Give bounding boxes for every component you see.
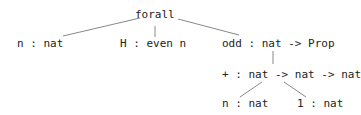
node-H-even-n: H : even n <box>120 37 186 50</box>
node-n-nat: n : nat <box>17 37 63 50</box>
node-forall: forall <box>135 8 175 21</box>
edge-plus-1 <box>284 82 306 97</box>
node-n-nat-leaf: n : nat <box>222 97 268 110</box>
node-odd: odd : nat -> Prop <box>222 37 335 50</box>
node-plus: + : nat -> nat -> nat <box>222 68 361 81</box>
edge-plus-n <box>240 82 262 97</box>
edge-forall-n <box>63 18 140 36</box>
node-1-nat: 1 : nat <box>297 97 343 110</box>
edge-forall-odd <box>178 19 239 35</box>
